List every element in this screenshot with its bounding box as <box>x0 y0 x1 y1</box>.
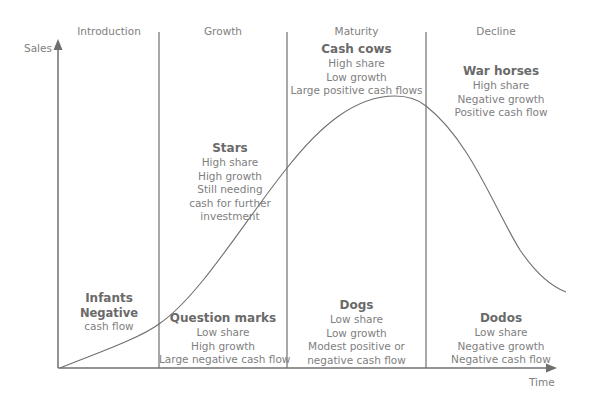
war-horses-line: Positive cash flow <box>436 106 566 120</box>
war-horses-line: High share <box>436 79 566 93</box>
y-axis-label: Sales <box>24 42 52 54</box>
question-marks-line: High growth <box>159 340 287 354</box>
infants-title: Infants <box>62 291 156 306</box>
y-axis-arrow-icon <box>54 39 63 50</box>
stars-line: High share <box>180 156 280 170</box>
cash-cows-line: Low growth <box>287 71 426 85</box>
dogs-line: negative cash flow <box>287 354 426 368</box>
cash-cows-title: Cash cows <box>287 42 426 57</box>
dogs-line: Low share <box>287 313 426 327</box>
stars-line: High growth <box>180 170 280 184</box>
stage-growth: Growth <box>159 25 287 37</box>
dodos-line: Negative cash flow <box>436 353 566 367</box>
dodos-line: Low share <box>436 326 566 340</box>
category-war-horses: War horses High share Negative growth Po… <box>436 64 566 120</box>
dogs-line: Low growth <box>287 327 426 341</box>
question-marks-title: Question marks <box>159 311 287 326</box>
category-question-marks: Question marks Low share High growth Lar… <box>159 311 287 367</box>
category-infants: Infants Negative cash flow <box>62 291 156 334</box>
cash-cows-line: High share <box>287 57 426 71</box>
war-horses-title: War horses <box>436 64 566 79</box>
stars-line: cash for further <box>180 197 280 211</box>
dodos-title: Dodos <box>436 311 566 326</box>
war-horses-line: Negative growth <box>436 93 566 107</box>
stars-line: investment <box>180 210 280 224</box>
dodos-line: Negative growth <box>436 340 566 354</box>
question-marks-line: Low share <box>159 326 287 340</box>
dogs-line: Modest positive or <box>287 340 426 354</box>
category-stars: Stars High share High growth Still needi… <box>180 141 280 224</box>
stage-decline: Decline <box>426 25 566 37</box>
stage-maturity: Maturity <box>287 25 426 37</box>
question-marks-line: Large negative cash flow <box>159 353 287 367</box>
stars-line: Still needing <box>180 183 280 197</box>
infants-line: cash flow <box>62 320 156 334</box>
dogs-title: Dogs <box>287 298 426 313</box>
stage-introduction: Introduction <box>59 25 159 37</box>
category-dogs: Dogs Low share Low growth Modest positiv… <box>287 298 426 367</box>
category-dodos: Dodos Low share Negative growth Negative… <box>436 311 566 367</box>
cash-cows-line: Large positive cash flows <box>287 84 426 98</box>
category-cash-cows: Cash cows High share Low growth Large po… <box>287 42 426 98</box>
infants-bold-line: Negative <box>62 306 156 320</box>
stars-title: Stars <box>180 141 280 156</box>
x-axis-label: Time <box>529 376 555 388</box>
